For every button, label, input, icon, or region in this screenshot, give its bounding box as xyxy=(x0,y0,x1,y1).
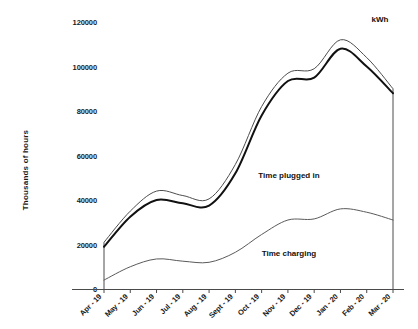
x-axis-tick-label: Nov - 19 xyxy=(261,292,287,318)
series-time-plugged-in-lower xyxy=(104,49,393,247)
x-axis-tick-label: Aug - 19 xyxy=(182,292,209,319)
energy-usage-line-chart: Thousands of hours 020000400006000080000… xyxy=(0,0,418,329)
y-axis-tick-label: 120000 xyxy=(73,18,97,27)
x-axis-tick-label: Mar - 20 xyxy=(367,292,393,318)
x-axis-tick-label: Jun - 19 xyxy=(130,292,156,318)
annotation-time-plugged-in: Time plugged in xyxy=(258,171,319,180)
series-time-plugged-in-upper xyxy=(104,40,393,289)
y-axis-tick-label: 100000 xyxy=(73,63,97,72)
y-axis-tick-label: 20000 xyxy=(77,241,97,250)
annotation-unit-kwh: kWh xyxy=(372,15,389,24)
chart-annotations: Time plugged in Time charging kWh xyxy=(258,15,388,258)
x-axis-tick-label: Sept - 19 xyxy=(207,292,235,320)
x-axis-tick-label: Dec - 19 xyxy=(287,292,313,318)
y-axis-title: Thousands of hours xyxy=(21,129,30,210)
series-time-charging xyxy=(104,209,393,280)
chart-container: Thousands of hours 020000400006000080000… xyxy=(0,0,418,329)
x-axis-tick-label: Apr - 19 xyxy=(78,292,104,318)
y-axis-title-text: Thousands of hours xyxy=(21,129,30,210)
x-axis-tick-label: Feb - 20 xyxy=(340,292,366,318)
y-axis-tick-label: 80000 xyxy=(77,107,97,116)
annotation-time-charging: Time charging xyxy=(262,249,317,258)
y-axis-tick-label: 40000 xyxy=(77,196,97,205)
series-group xyxy=(104,40,393,289)
y-axis-tick-label: 60000 xyxy=(77,152,97,161)
x-axis-tick-label: May - 19 xyxy=(103,292,130,319)
x-axis-tick-label: Oct - 19 xyxy=(236,292,261,317)
x-axis-tick-label: Jan - 20 xyxy=(314,292,340,318)
x-axis-ticks: Apr - 19May - 19Jun - 19Jul - 19Aug - 19… xyxy=(78,290,393,320)
x-axis-tick-label: Jul - 19 xyxy=(158,292,182,316)
y-axis-ticks: 020000400006000080000100000120000 xyxy=(73,18,97,294)
